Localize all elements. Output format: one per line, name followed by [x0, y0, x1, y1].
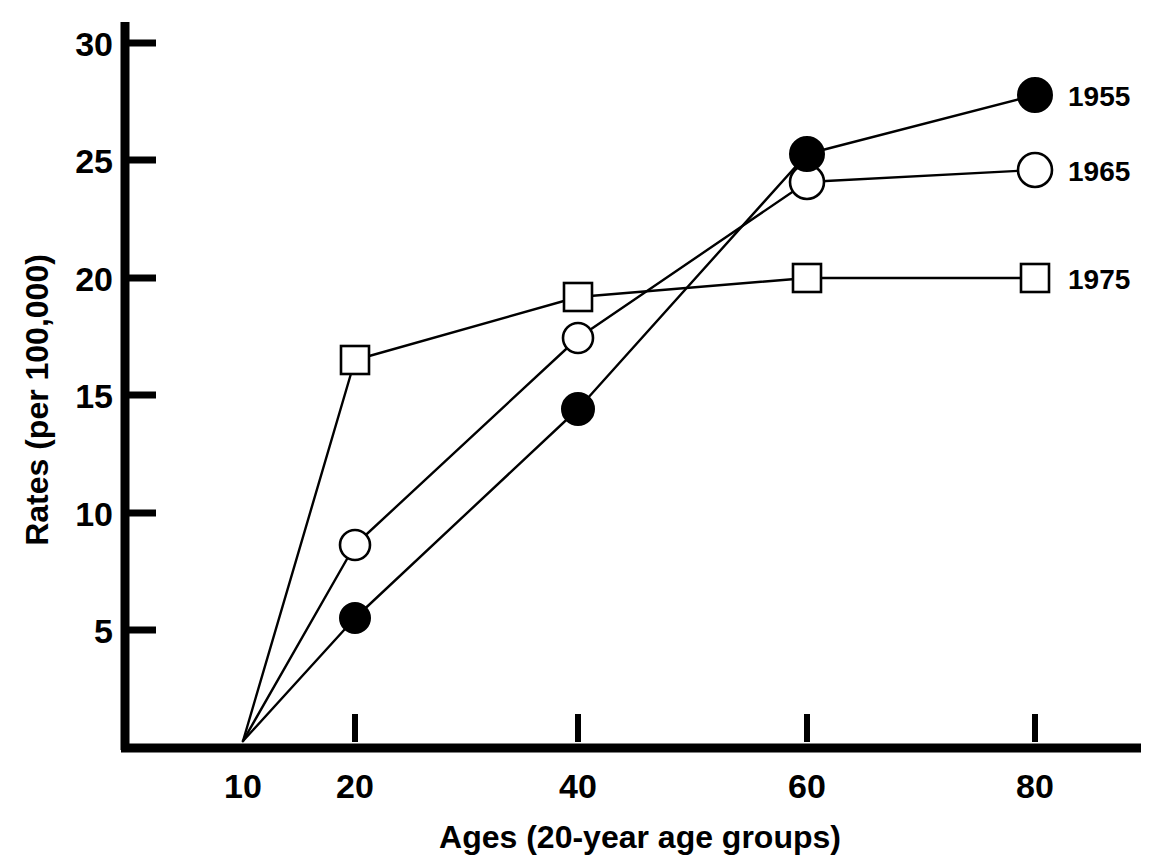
marker-1955-40	[562, 393, 594, 425]
x-axis-tick-labels: 10 20 40 60 80	[224, 767, 1054, 805]
marker-1975-40	[564, 283, 592, 311]
legend: 1955 1965 1975	[1068, 81, 1130, 295]
series-1965-line	[243, 170, 1035, 741]
y-tick-label-15: 15	[75, 377, 113, 415]
y-axis-tick-labels: 30 25 20 15 10 5	[75, 25, 113, 650]
marker-1965-40	[563, 323, 593, 353]
line-chart: 30 25 20 15 10 5 10 20 40 60 80 Ages (20…	[0, 0, 1152, 861]
y-axis-title: Rates (per 100,000)	[19, 254, 55, 546]
y-tick-label-5: 5	[94, 612, 113, 650]
axis-lines	[121, 22, 1141, 750]
x-axis-ticks	[355, 714, 1035, 742]
marker-1975-80	[1021, 264, 1049, 292]
marker-1955-20	[340, 603, 370, 633]
series-1955	[243, 78, 1052, 741]
marker-1975-60	[793, 264, 821, 292]
x-tick-label-40: 40	[559, 767, 597, 805]
series-1975	[243, 264, 1049, 741]
x-axis-title: Ages (20-year age groups)	[439, 819, 841, 855]
marker-1965-80	[1018, 153, 1052, 187]
legend-label-1955: 1955	[1068, 81, 1130, 112]
series-1965-markers	[340, 153, 1052, 560]
x-tick-label-80: 80	[1016, 767, 1054, 805]
marker-1965-20	[340, 530, 370, 560]
legend-label-1965: 1965	[1068, 156, 1130, 187]
y-tick-label-10: 10	[75, 495, 113, 533]
marker-1955-60	[790, 137, 824, 171]
legend-label-1975: 1975	[1068, 264, 1130, 295]
series-1955-markers	[340, 78, 1052, 633]
series-1955-line	[243, 95, 1035, 741]
marker-1955-80	[1018, 78, 1052, 112]
series-1965	[243, 153, 1052, 741]
y-tick-label-25: 25	[75, 142, 113, 180]
x-tick-label-20: 20	[336, 767, 374, 805]
x-tick-label-60: 60	[788, 767, 826, 805]
x-tick-label-10: 10	[224, 767, 262, 805]
y-tick-label-30: 30	[75, 25, 113, 63]
y-axis-ticks	[129, 43, 156, 630]
chart-figure: 30 25 20 15 10 5 10 20 40 60 80 Ages (20…	[0, 0, 1152, 861]
marker-1975-20	[341, 346, 369, 374]
y-tick-label-20: 20	[75, 260, 113, 298]
